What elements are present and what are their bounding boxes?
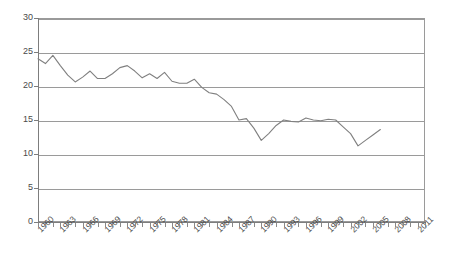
y-axis-ticks: 051015202530	[0, 0, 33, 269]
plot-area	[38, 18, 425, 222]
y-tick-mark	[34, 154, 38, 155]
line-chart: 051015202530 196019631966196919721975197…	[0, 0, 451, 269]
x-tick-mark	[269, 223, 270, 227]
x-tick-mark	[321, 223, 322, 227]
x-tick-mark	[98, 223, 99, 227]
x-tick-mark	[313, 223, 314, 227]
x-tick-mark	[135, 223, 136, 227]
x-tick-mark	[68, 223, 69, 227]
x-tick-mark	[202, 223, 203, 227]
x-tick-mark	[388, 223, 389, 227]
y-tick-mark	[34, 188, 38, 189]
x-tick-mark	[358, 223, 359, 227]
x-tick-mark	[90, 223, 91, 227]
gridline	[39, 19, 424, 20]
x-tick-mark	[209, 223, 210, 227]
y-tick-label: 0	[3, 217, 33, 226]
x-tick-mark	[142, 223, 143, 227]
x-tick-mark	[179, 223, 180, 227]
x-tick-mark	[187, 223, 188, 227]
y-tick-label: 15	[3, 115, 33, 124]
x-tick-mark	[425, 223, 426, 227]
x-tick-mark	[224, 223, 225, 227]
x-tick-mark	[232, 223, 233, 227]
x-tick-mark	[157, 223, 158, 227]
x-tick-mark	[365, 223, 366, 227]
x-tick-mark	[291, 223, 292, 227]
gridline	[39, 121, 424, 122]
y-tick-mark	[34, 52, 38, 53]
x-tick-mark	[45, 223, 46, 227]
x-tick-mark	[403, 223, 404, 227]
y-tick-mark	[34, 18, 38, 19]
x-tick-mark	[254, 223, 255, 227]
x-tick-mark	[246, 223, 247, 227]
x-tick-mark	[165, 223, 166, 227]
gridline	[39, 87, 424, 88]
x-tick-mark	[75, 223, 76, 227]
x-tick-mark	[53, 223, 54, 227]
x-tick-mark	[298, 223, 299, 227]
x-tick-mark	[343, 223, 344, 227]
y-tick-label: 25	[3, 47, 33, 56]
x-tick-mark	[120, 223, 121, 227]
x-tick-mark	[410, 223, 411, 227]
y-tick-mark	[34, 120, 38, 121]
y-tick-mark	[34, 86, 38, 87]
gridline	[39, 53, 424, 54]
x-tick-mark	[380, 223, 381, 227]
y-axis-line	[38, 18, 39, 223]
x-tick-mark	[112, 223, 113, 227]
y-tick-label: 20	[3, 81, 33, 90]
gridline	[39, 189, 424, 190]
x-tick-mark	[276, 223, 277, 227]
y-tick-label: 30	[3, 13, 33, 22]
y-tick-label: 5	[3, 183, 33, 192]
x-tick-mark	[336, 223, 337, 227]
y-tick-label: 10	[3, 149, 33, 158]
gridline	[39, 155, 424, 156]
